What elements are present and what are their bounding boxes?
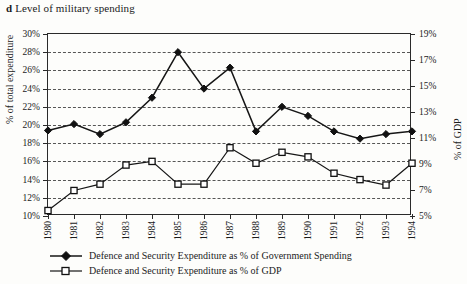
- data-point-marker: [71, 187, 77, 193]
- y-axis-right-tick-label: 13%: [419, 107, 436, 117]
- x-axis-tick-label: 1993: [381, 221, 391, 240]
- figure-panel: dLevel of military spending % of total e…: [0, 0, 467, 284]
- x-axis-tick: [412, 214, 413, 219]
- x-axis-tick-label: 1989: [277, 221, 287, 240]
- legend-item-gdp: Defence and Security Expenditure as % of…: [49, 263, 352, 278]
- data-point-marker: [70, 120, 77, 127]
- data-point-marker: [97, 181, 103, 187]
- x-axis-tick-label: 1984: [147, 221, 157, 240]
- data-point-marker: [253, 160, 259, 166]
- data-point-marker: [408, 128, 415, 135]
- data-point-marker: [123, 162, 129, 168]
- data-point-marker: [357, 177, 363, 183]
- y-axis-left-tick-label: 20%: [23, 120, 40, 130]
- x-axis-tick-label: 1990: [303, 221, 313, 240]
- y-axis-left-title: % of total expenditure: [4, 35, 15, 124]
- y-axis-right-tick-label: 17%: [419, 55, 436, 65]
- data-point-marker: [45, 207, 51, 213]
- y-axis-left-tick-label: 28%: [23, 47, 40, 57]
- x-axis-tick-label: 1986: [199, 221, 209, 240]
- data-point-marker: [331, 170, 337, 176]
- legend-label: Defence and Security Expenditure as % of…: [89, 265, 281, 276]
- y-axis-left-tick-label: 30%: [23, 29, 40, 39]
- data-point-marker: [356, 135, 363, 142]
- data-point-marker: [330, 128, 337, 135]
- filled-diamond-icon: [49, 250, 83, 262]
- y-axis-right-tick-label: 5%: [419, 211, 432, 221]
- data-point-marker: [409, 160, 415, 166]
- x-axis-tick-label: 1983: [121, 221, 131, 240]
- data-point-marker: [305, 154, 311, 160]
- data-point-marker: [201, 181, 207, 187]
- x-axis-tick-label: 1994: [407, 221, 417, 240]
- data-point-marker: [44, 127, 51, 134]
- plot-area: 10%12%14%16%18%20%22%24%26%28%30% 5%7%9%…: [47, 33, 411, 215]
- y-axis-left-tick-label: 10%: [23, 211, 40, 221]
- y-axis-left-tick-label: 14%: [23, 175, 40, 185]
- y-axis-right-title: % of GDP: [452, 118, 463, 160]
- page-title: Level of military spending: [15, 2, 135, 14]
- panel-letter: d: [6, 2, 12, 14]
- legend-item-government-spending: Defence and Security Expenditure as % of…: [49, 248, 352, 263]
- x-axis-tick-label: 1987: [225, 221, 235, 240]
- data-point-marker: [175, 181, 181, 187]
- figure-title: dLevel of military spending: [6, 2, 135, 14]
- y-axis-left-tick-label: 26%: [23, 65, 40, 75]
- x-axis-tick-label: 1992: [355, 221, 365, 240]
- y-axis-right-tick-label: 11%: [419, 133, 436, 143]
- series-layer: [48, 34, 412, 216]
- y-axis-left-tick-label: 22%: [23, 102, 40, 112]
- data-point-marker: [279, 149, 285, 155]
- legend: Defence and Security Expenditure as % of…: [49, 248, 352, 278]
- y-axis-right-tick-label: 19%: [419, 29, 436, 39]
- x-axis-tick-label: 1991: [329, 221, 339, 240]
- y-axis-right-tick-label: 9%: [419, 159, 432, 169]
- y-axis-left-tick-label: 12%: [23, 193, 40, 203]
- data-point-marker: [304, 112, 311, 119]
- data-point-marker: [227, 145, 233, 151]
- x-axis-tick-label: 1982: [95, 221, 105, 240]
- y-axis-left-tick-label: 16%: [23, 156, 40, 166]
- data-point-marker: [383, 182, 389, 188]
- data-point-marker: [149, 158, 155, 164]
- data-point-marker: [96, 131, 103, 138]
- open-square-icon: [49, 265, 83, 277]
- x-axis-tick-label: 1988: [251, 221, 261, 240]
- data-point-marker: [382, 131, 389, 138]
- x-axis-tick-label: 1980: [43, 221, 53, 240]
- x-axis-tick-label: 1985: [173, 221, 183, 240]
- x-axis-tick-label: 1981: [69, 221, 79, 240]
- y-axis-left-tick-label: 18%: [23, 138, 40, 148]
- legend-label: Defence and Security Expenditure as % of…: [89, 250, 352, 261]
- y-axis-right-tick-label: 7%: [419, 185, 432, 195]
- y-axis-left-tick-label: 24%: [23, 84, 40, 94]
- y-axis-right-tick-label: 15%: [419, 81, 436, 91]
